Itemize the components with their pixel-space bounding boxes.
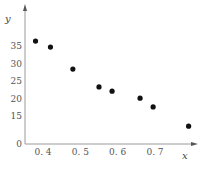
data-point bbox=[186, 124, 191, 129]
data-point bbox=[96, 84, 101, 89]
data-point bbox=[109, 89, 114, 94]
y-tick-label: 35 bbox=[11, 41, 23, 51]
data-point bbox=[48, 44, 53, 49]
x-axis-arrow-icon bbox=[191, 142, 198, 146]
y-tick-label: 30 bbox=[11, 59, 23, 69]
data-point bbox=[33, 39, 38, 44]
y-tick-label: 25 bbox=[11, 76, 23, 86]
data-point bbox=[70, 67, 75, 72]
data-points bbox=[33, 39, 191, 129]
x-axis-title: x bbox=[182, 150, 188, 161]
x-tick-label: 0. 5 bbox=[72, 147, 89, 157]
y-axis-arrow-icon bbox=[23, 4, 27, 11]
x-tick-labels: 0. 40. 50. 60. 7 bbox=[34, 147, 163, 157]
data-point bbox=[151, 104, 156, 109]
y-tick-labels: 01520253035 bbox=[11, 41, 23, 149]
y-tick-label: 20 bbox=[11, 94, 23, 104]
x-tick-label: 0. 6 bbox=[109, 147, 126, 157]
x-tick-label: 0. 7 bbox=[146, 147, 163, 157]
x-tick-label: 0. 4 bbox=[34, 147, 51, 157]
y-axis-title: y bbox=[4, 13, 11, 24]
y-tick-label: 15 bbox=[11, 111, 23, 121]
scatter-chart: y x 01520253035 0. 40. 50. 60. 7 bbox=[0, 0, 203, 175]
data-point bbox=[137, 96, 142, 101]
y-tick-label: 0 bbox=[16, 139, 22, 149]
